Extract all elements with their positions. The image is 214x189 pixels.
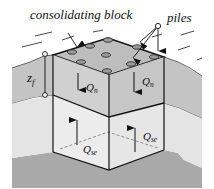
pile-head-icon [103, 69, 112, 73]
piles-label: piles [166, 10, 192, 25]
pile-head-icon [102, 53, 111, 57]
pile-head-icon [150, 55, 159, 59]
piles-callout-node [155, 23, 160, 28]
pile-head-icon [68, 50, 77, 54]
consolidating-block [53, 38, 164, 170]
pile-head-icon [77, 60, 86, 64]
pile-head-icon [104, 38, 113, 42]
pile-head-icon [127, 62, 136, 66]
consolidating-block-label: consolidating block [30, 7, 132, 22]
consolidating-block-diagram: consolidating block piles zf Qn Qn Qse Q… [0, 0, 214, 189]
pile-head-icon [86, 44, 95, 48]
